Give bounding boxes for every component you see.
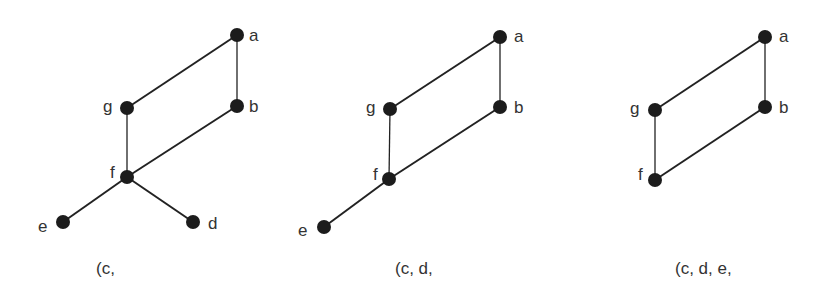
edge-b-f (389, 107, 500, 179)
node-label-f: f (373, 165, 378, 184)
node-label-f: f (638, 165, 643, 184)
node-label-g: g (366, 98, 375, 117)
node-d (186, 215, 200, 229)
edge-a-g (655, 37, 765, 110)
node-label-g: g (630, 99, 639, 118)
edge-f-d (127, 177, 193, 222)
edge-a-g (127, 35, 237, 108)
node-a (493, 30, 507, 44)
node-f (120, 170, 134, 184)
node-label-d: d (208, 214, 217, 233)
node-label-e: e (38, 217, 47, 236)
node-label-b: b (249, 97, 258, 116)
node-label-a: a (249, 26, 259, 45)
node-label-g: g (103, 97, 112, 116)
edge-f-e (324, 179, 389, 227)
node-b (758, 100, 772, 114)
node-e (56, 215, 70, 229)
caption-panel-1: (c, (96, 259, 115, 279)
node-a (230, 28, 244, 42)
node-label-b: b (779, 98, 788, 117)
node-b (493, 100, 507, 114)
node-label-e: e (298, 221, 307, 240)
lattice-diagrams: abgfedabgfeabgf (0, 0, 820, 301)
node-label-a: a (514, 27, 524, 46)
node-g (648, 103, 662, 117)
node-b (230, 99, 244, 113)
node-f (382, 172, 396, 186)
node-label-a: a (779, 27, 789, 46)
diagram-panel-3: abgf (630, 27, 789, 187)
node-a (758, 30, 772, 44)
edge-b-f (655, 107, 765, 180)
diagram-panel-1: abgfed (38, 26, 259, 236)
caption-panel-2: (c, d, (395, 259, 433, 279)
diagram-panel-2: abgfe (298, 27, 524, 240)
node-label-f: f (110, 163, 115, 182)
node-f (648, 173, 662, 187)
edge-b-f (127, 106, 237, 177)
node-label-b: b (514, 98, 523, 117)
edge-a-g (390, 37, 500, 109)
caption-panel-3: (c, d, e, (675, 259, 732, 279)
edge-g-f (389, 109, 390, 179)
edge-f-e (63, 177, 127, 222)
node-e (317, 220, 331, 234)
node-g (120, 101, 134, 115)
node-g (383, 102, 397, 116)
